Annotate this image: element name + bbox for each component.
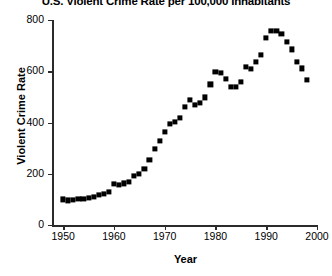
data-point — [264, 35, 269, 40]
data-point — [238, 80, 243, 85]
data-point — [106, 189, 111, 194]
data-point — [294, 59, 299, 64]
data-point — [127, 179, 132, 184]
x-tick-label: 1980 — [204, 230, 227, 242]
data-point — [208, 82, 213, 87]
data-point — [284, 39, 289, 44]
x-axis-label: Year — [53, 253, 318, 265]
data-point — [142, 166, 147, 171]
y-tick: 200 — [48, 174, 53, 175]
data-point — [152, 146, 157, 151]
y-tick-label: 400 — [26, 116, 44, 128]
data-point — [304, 77, 309, 82]
data-point — [218, 70, 223, 75]
data-point — [259, 52, 264, 57]
x-tick-label: 1970 — [153, 230, 176, 242]
data-point — [253, 59, 258, 64]
y-axis-label: Violent Crime Rate — [15, 51, 27, 181]
y-tick-label: 600 — [26, 64, 44, 76]
y-tick: 600 — [48, 71, 53, 72]
plot-area: 0200400600800 195019601970198019902000 — [53, 20, 317, 225]
data-point — [157, 138, 162, 143]
y-tick: 400 — [48, 123, 53, 124]
data-point — [177, 116, 182, 121]
data-point — [299, 66, 304, 71]
data-point — [223, 76, 228, 81]
y-tick: 800 — [48, 20, 53, 21]
data-point — [198, 100, 203, 105]
data-point — [289, 47, 294, 52]
page-title: U.S. Violent Crime Rate per 100,000 Inha… — [0, 0, 332, 8]
y-tick-label: 800 — [26, 13, 44, 25]
data-point — [182, 104, 187, 109]
y-tick: 0 — [48, 225, 53, 226]
y-tick-label: 0 — [38, 218, 44, 230]
x-tick-label: 1990 — [255, 230, 278, 242]
data-point — [279, 31, 284, 36]
data-point — [162, 129, 167, 134]
x-tick-label: 2000 — [305, 230, 328, 242]
x-tick-label: 1950 — [51, 230, 74, 242]
data-point — [203, 95, 208, 100]
data-point — [248, 66, 253, 71]
x-axis-line — [52, 225, 317, 227]
x-tick-label: 1960 — [102, 230, 125, 242]
data-point — [233, 84, 238, 89]
chart-page: U.S. Violent Crime Rate per 100,000 Inha… — [0, 0, 332, 276]
data-point — [137, 171, 142, 176]
data-point — [147, 157, 152, 162]
y-tick-label: 200 — [26, 167, 44, 179]
